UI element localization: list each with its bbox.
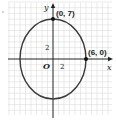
x-axis-arrow-icon xyxy=(108,57,113,61)
point-label-6-0: (6, 0) xyxy=(88,48,107,57)
origin-label: O xyxy=(43,61,50,71)
y-axis-arrow-icon xyxy=(51,3,55,8)
ellipse-figure: y x O 2 2 (0, 7) (6, 0) xyxy=(0,0,116,120)
point-0-7 xyxy=(51,17,55,21)
y-tick-label: 2 xyxy=(45,44,49,52)
point-6-0 xyxy=(84,57,88,61)
x-axis-label: x xyxy=(107,63,112,72)
x-tick-label: 2 xyxy=(60,63,64,71)
point-label-0-7: (0, 7) xyxy=(56,9,75,18)
stray-dot xyxy=(2,11,3,12)
y-axis-label: y xyxy=(43,3,49,12)
